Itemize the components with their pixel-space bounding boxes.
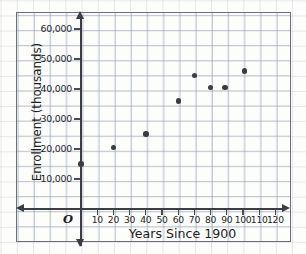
scatter-data-point [222, 85, 227, 90]
chart-screenshot: 10,00020,00030,00040,00050,00060,0001020… [0, 0, 306, 254]
y-tick-label: 20,000 [40, 143, 72, 154]
y-tick-mark [74, 58, 80, 59]
y-tick-mark [74, 148, 80, 149]
y-tick-label: 50,000 [40, 53, 72, 64]
origin-label: O [63, 212, 73, 226]
scatter-data-point [143, 131, 148, 136]
y-axis-title: Enrollment (thousands) [30, 17, 44, 207]
y-axis-line [80, 18, 82, 246]
y-tick-label: 40,000 [40, 83, 72, 94]
x-axis-left-arrow-icon [16, 204, 24, 212]
scatter-data-point [176, 98, 181, 103]
y-axis-down-arrow-icon [76, 239, 84, 247]
x-tick-label: 120 [264, 214, 286, 225]
scatter-data-point [242, 68, 247, 73]
y-tick-mark [74, 28, 80, 29]
scatter-data-point [78, 161, 83, 166]
y-tick-label: 10,000 [40, 173, 72, 184]
y-tick-mark [74, 178, 80, 179]
x-axis-line [22, 208, 284, 210]
y-tick-label: 30,000 [40, 113, 72, 124]
y-tick-label: 60,000 [40, 23, 72, 34]
plot-gridlines [17, 13, 290, 241]
x-axis-title: Years Since 1900 [95, 226, 270, 241]
x-axis-right-arrow-icon [282, 204, 290, 212]
y-axis-up-arrow-icon [76, 11, 84, 19]
y-tick-mark [74, 88, 80, 89]
y-tick-mark [74, 118, 80, 119]
